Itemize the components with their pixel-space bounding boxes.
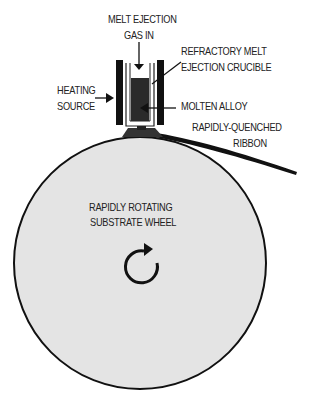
heating-coil-right [157, 60, 164, 125]
ribbon-label-line1: RAPIDLY-QUENCHED [192, 119, 282, 135]
ribbon-label-line2: RIBBON [233, 135, 267, 151]
heating-coil-left [116, 60, 123, 125]
molten-alloy [131, 78, 149, 121]
wheel-label-line2: SUBSTRATE WHEEL [90, 214, 176, 230]
right-arrow-icon [95, 93, 114, 103]
heating-label-line1: HEATING [57, 82, 96, 98]
substrate-wheel [14, 137, 266, 389]
wheel-label-line1: RAPIDLY ROTATING [89, 199, 172, 215]
crucible-label-line1: REFRACTORY MELT [181, 43, 267, 59]
gas-in-label-line1: MELT EJECTION [108, 11, 177, 27]
crucible-leader-line [152, 62, 181, 84]
gas-in-label-line2: GAS IN [124, 27, 154, 43]
heating-label-line2: SOURCE [57, 98, 95, 114]
crucible-label-line2: EJECTION CRUCIBLE [181, 59, 272, 75]
molten-alloy-label: MOLTEN ALLOY [181, 98, 248, 114]
